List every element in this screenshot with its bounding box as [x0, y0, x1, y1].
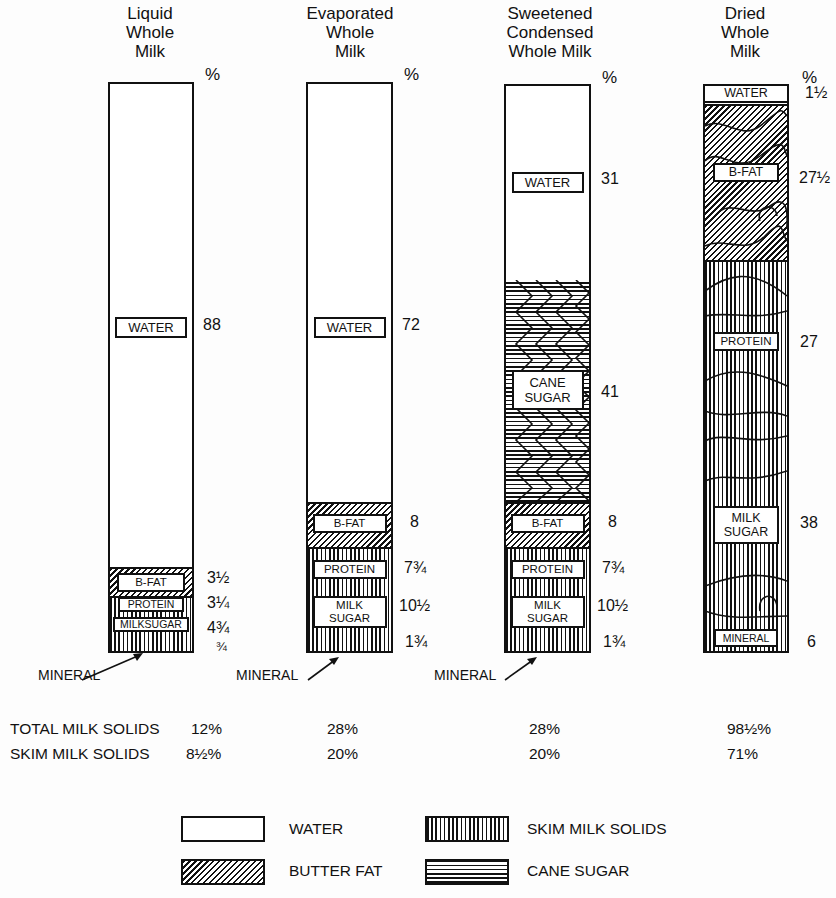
total-milk-solids-dried: 98½% — [727, 720, 771, 738]
value-protein: 7¾ — [602, 559, 624, 577]
value-mineral: 6 — [807, 633, 816, 651]
mineral-callout-label: MINERAL — [38, 667, 100, 683]
label-water: WATER — [314, 317, 386, 338]
value-b-fat: 8 — [410, 513, 419, 531]
mineral-callout-label: MINERAL — [236, 667, 298, 683]
legend-swatch-cane-sugar — [425, 859, 509, 885]
value-water: 1½ — [805, 84, 827, 102]
value-milk-sugar: 4¾ — [207, 619, 229, 637]
value-water: 72 — [402, 316, 420, 334]
value-b-fat: 3½ — [207, 569, 229, 587]
legend-swatch-skim-milk-solids — [425, 816, 509, 842]
mineral-arrow-icon — [0, 0, 1, 1]
value-cane-sugar: 41 — [601, 383, 619, 401]
skim-milk-solids-condensed: 20% — [529, 745, 560, 763]
value-protein: 3¼ — [207, 594, 229, 612]
value-protein: 7¾ — [404, 559, 426, 577]
percent-header: % — [404, 65, 419, 85]
label-line: SUGAR — [319, 612, 381, 625]
bar-dried-whole-milk: WATER B-FAT PROTEIN MILK SUGAR MINERAL — [703, 84, 789, 653]
label-protein: PROTEIN — [511, 560, 585, 579]
title-line: Liquid — [90, 4, 210, 23]
mineral-callout-label: MINERAL — [434, 667, 496, 683]
label-line: SUGAR — [718, 525, 774, 539]
title-line: Whole — [690, 23, 800, 42]
skim-milk-solids-evaporated: 20% — [327, 745, 358, 763]
total-milk-solids-liquid: 12% — [191, 720, 222, 738]
title-line: Sweetened — [480, 4, 620, 23]
label-milk-sugar: MILKSUGAR — [113, 617, 189, 632]
legend-label-butter-fat: BUTTER FAT — [289, 862, 383, 880]
total-milk-solids-evaporated: 28% — [327, 720, 358, 738]
skim-milk-solids-label: SKIM MILK SOLIDS — [10, 745, 150, 763]
bar-liquid-whole-milk: WATER B-FAT PROTEIN MILKSUGAR — [108, 82, 194, 653]
label-mineral: MINERAL — [714, 629, 778, 647]
column-title-sweetened-condensed-whole-milk: Sweetened Condensed Whole Milk — [480, 4, 620, 61]
value-milk-sugar: 10½ — [597, 597, 628, 615]
label-b-fat: B-FAT — [117, 573, 185, 592]
value-water: 88 — [203, 316, 221, 334]
label-water: WATER — [115, 317, 187, 338]
skim-milk-solids-liquid: 8½% — [186, 745, 221, 763]
value-milk-sugar: 10½ — [399, 597, 430, 615]
percent-header: % — [602, 68, 617, 88]
label-b-fat: B-FAT — [511, 514, 585, 533]
value-milk-sugar: 38 — [800, 514, 818, 532]
label-line: SUGAR — [517, 612, 579, 625]
label-line: MILK — [319, 599, 381, 612]
label-milk-sugar: MILK SUGAR — [313, 596, 387, 628]
label-line: CANE — [518, 375, 578, 390]
bar-sweetened-condensed-whole-milk: WATER CANE SUGAR B-FAT PROTEIN MILK SUGA… — [504, 84, 591, 653]
legend-label-cane-sugar: CANE SUGAR — [527, 862, 630, 880]
label-line: MILK — [517, 599, 579, 612]
value-b-fat: 8 — [608, 513, 617, 531]
label-b-fat: B-FAT — [313, 514, 387, 533]
title-line: Milk — [690, 42, 800, 61]
label-line: SUGAR — [518, 390, 578, 405]
title-line: Whole Milk — [480, 42, 620, 61]
title-line: Condensed — [480, 23, 620, 42]
percent-header: % — [205, 65, 220, 85]
value-mineral: 1¾ — [603, 633, 625, 651]
label-b-fat: B-FAT — [713, 163, 779, 182]
title-line: Whole — [90, 23, 210, 42]
value-mineral: ¾ — [216, 639, 227, 654]
legend-swatch-butter-fat — [181, 859, 265, 885]
label-cane-sugar: CANE SUGAR — [512, 370, 584, 410]
label-water: WATER — [705, 86, 787, 103]
title-line: Whole — [285, 23, 415, 42]
label-protein: PROTEIN — [118, 597, 184, 612]
segment-water — [308, 84, 391, 502]
label-water: WATER — [512, 172, 584, 193]
label-protein: PROTEIN — [313, 560, 387, 579]
bar-evaporated-whole-milk: WATER B-FAT PROTEIN MILK SUGAR — [306, 82, 393, 653]
value-protein: 27 — [800, 333, 818, 351]
total-milk-solids-label: TOTAL MILK SOLIDS — [10, 720, 160, 738]
skim-milk-solids-dried: 71% — [727, 745, 758, 763]
label-protein: PROTEIN — [713, 332, 779, 351]
value-water: 31 — [601, 170, 619, 188]
title-line: Dried — [690, 4, 800, 23]
column-title-liquid-whole-milk: Liquid Whole Milk — [90, 4, 210, 61]
column-title-dried-whole-milk: Dried Whole Milk — [690, 4, 800, 61]
column-title-evaporated-whole-milk: Evaporated Whole Milk — [285, 4, 415, 61]
total-milk-solids-condensed: 28% — [529, 720, 560, 738]
value-b-fat: 27½ — [799, 169, 830, 187]
title-line: Milk — [285, 42, 415, 61]
title-line: Milk — [90, 42, 210, 61]
legend-label-water: WATER — [289, 820, 343, 838]
label-line: MILK — [718, 511, 774, 525]
legend-swatch-water — [181, 816, 265, 842]
label-milk-sugar: MILK SUGAR — [713, 506, 779, 544]
title-line: Evaporated — [285, 4, 415, 23]
legend-label-skim-milk-solids: SKIM MILK SOLIDS — [527, 820, 667, 838]
value-mineral: 1¾ — [405, 633, 427, 651]
label-milk-sugar: MILK SUGAR — [511, 596, 585, 628]
